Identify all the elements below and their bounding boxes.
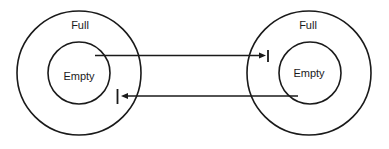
left-outer-label: Full (71, 19, 89, 31)
edge-right-to-left (118, 89, 299, 104)
left-inner-label: Empty (63, 70, 95, 82)
arrowhead-left-icon (121, 93, 128, 99)
diagram-canvas: Full Empty Full Empty (0, 0, 389, 149)
right-outer-label: Full (299, 19, 317, 31)
right-node: Full Empty (247, 11, 371, 135)
edge-left-to-right (95, 50, 268, 62)
arrowhead-right-icon (259, 53, 266, 59)
right-inner-label: Empty (293, 67, 325, 79)
left-node: Full Empty (17, 11, 141, 135)
